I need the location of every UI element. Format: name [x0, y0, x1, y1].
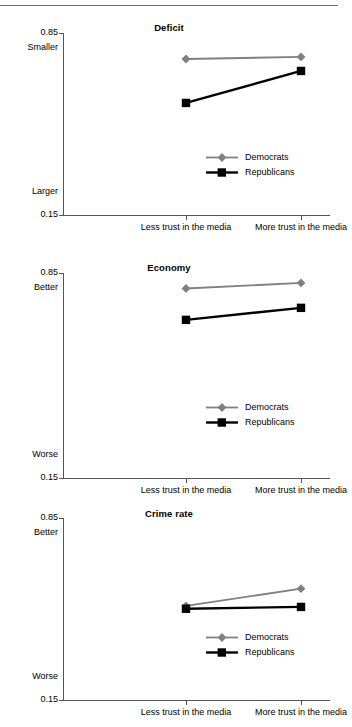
y-axis-max-label: 0.85: [10, 512, 58, 522]
x-tick-2: [301, 479, 302, 483]
y-axis-bottom-word: Larger: [2, 186, 58, 196]
legend-label: Republicans: [245, 167, 295, 177]
y-tick-min: [59, 700, 63, 701]
x-axis-label-1: Less trust in the media: [121, 485, 251, 495]
y-tick-max: [59, 33, 63, 34]
y-tick-min: [59, 478, 63, 479]
y-axis-max-label: 0.85: [10, 267, 58, 277]
y-tick-max: [59, 273, 63, 274]
data-point-marker: [182, 316, 190, 324]
x-tick-1: [186, 216, 187, 220]
legend-diamond-icon: [205, 630, 239, 645]
x-axis-line: [63, 700, 330, 701]
x-tick-2: [301, 701, 302, 705]
legend-label: Democrats: [245, 152, 289, 162]
y-axis-min-label: 0.15: [10, 694, 58, 704]
series-line: [186, 71, 301, 103]
series-democrats: [182, 53, 306, 64]
x-axis-line: [63, 215, 330, 216]
header-rule: [0, 5, 338, 6]
data-point-marker: [297, 584, 306, 593]
series-democrats: [182, 279, 306, 293]
y-axis-max-label: 0.85: [10, 27, 58, 37]
data-point-marker: [297, 279, 306, 288]
x-axis-label-2: More trust in the media: [236, 222, 352, 232]
x-tick-1: [186, 701, 187, 705]
data-point-marker: [182, 605, 190, 613]
x-tick-1: [186, 479, 187, 483]
y-axis-bottom-word: Worse: [2, 449, 58, 459]
panel-title: Economy: [0, 262, 338, 273]
legend-square-icon: [205, 165, 239, 180]
legend-diamond-icon: [205, 400, 239, 415]
legend-label: Republicans: [245, 417, 295, 427]
y-tick-min: [59, 215, 63, 216]
y-tick-max: [59, 518, 63, 519]
x-tick-2: [301, 216, 302, 220]
y-axis-top-word: Better: [2, 282, 58, 292]
x-axis-label-2: More trust in the media: [236, 485, 352, 495]
y-axis-bottom-word: Worse: [2, 671, 58, 681]
data-point-marker: [297, 53, 306, 62]
series-line: [186, 308, 301, 320]
legend-label: Republicans: [245, 647, 295, 657]
series-democrats: [182, 584, 306, 610]
x-axis-label-1: Less trust in the media: [121, 222, 251, 232]
x-axis-label-1: Less trust in the media: [121, 707, 251, 717]
y-axis-top-word: Smaller: [2, 42, 58, 52]
data-point-marker: [297, 304, 305, 312]
data-point-marker: [182, 601, 191, 610]
x-axis-label-2: More trust in the media: [236, 707, 352, 717]
legend-diamond-icon: [205, 150, 239, 165]
y-axis-top-word: Better: [2, 527, 58, 537]
series-line: [186, 283, 301, 289]
data-point-marker: [182, 284, 191, 293]
series-line: [186, 607, 301, 609]
series-republicans: [182, 67, 305, 107]
y-axis-line: [63, 518, 64, 700]
y-axis-line: [63, 33, 64, 215]
x-axis-line: [63, 478, 330, 479]
data-point-marker: [297, 67, 305, 75]
data-point-marker: [182, 55, 191, 64]
y-axis-line: [63, 273, 64, 478]
y-axis-min-label: 0.15: [10, 472, 58, 482]
series-line: [186, 589, 301, 606]
series-republicans: [182, 603, 305, 613]
panel-title: Deficit: [0, 22, 338, 33]
series-line: [186, 57, 301, 59]
legend-square-icon: [205, 645, 239, 660]
legend-label: Democrats: [245, 632, 289, 642]
data-point-marker: [182, 99, 190, 107]
legend-square-icon: [205, 415, 239, 430]
panel-title: Crime rate: [0, 508, 338, 519]
legend-label: Democrats: [245, 402, 289, 412]
y-axis-min-label: 0.15: [10, 209, 58, 219]
series-republicans: [182, 304, 305, 324]
data-point-marker: [297, 603, 305, 611]
